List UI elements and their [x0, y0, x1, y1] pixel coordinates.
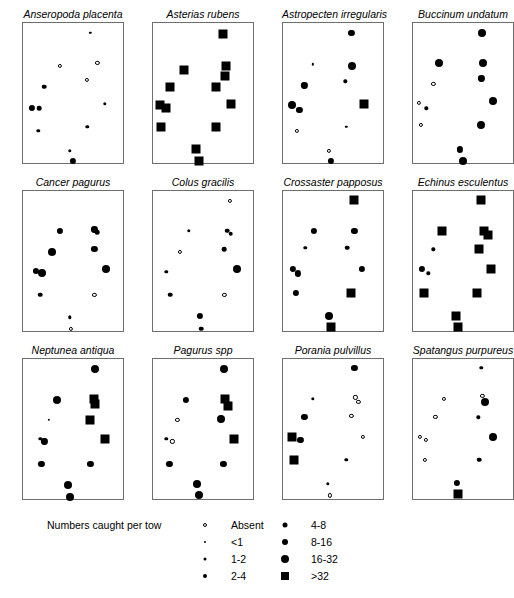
abundance-marker: [91, 400, 100, 409]
abundance-marker: [359, 99, 368, 108]
panel-title: Neptunea antiqua: [22, 344, 124, 356]
abundance-marker: [451, 311, 460, 320]
panel-title: Pagurus spp: [152, 344, 254, 356]
island-outline: [153, 359, 253, 499]
abundance-marker: [224, 401, 233, 410]
abundance-marker: [179, 65, 188, 74]
legend-label: 2-4: [231, 568, 246, 584]
panel-title: Astropecten irregularis: [282, 8, 384, 20]
island-outline: [283, 23, 383, 163]
abundance-marker: [484, 231, 493, 240]
panel-map-area: [152, 190, 254, 332]
abundance-marker: [199, 326, 204, 331]
abundance-marker: [221, 71, 230, 80]
species-panel: Buccinum undatum: [412, 8, 514, 164]
abundance-marker: [435, 59, 443, 67]
legend-square-icon: [281, 572, 289, 580]
island-outline: [283, 359, 383, 499]
island-outline: [153, 23, 253, 163]
abundance-marker: [233, 265, 241, 273]
abundance-marker: [191, 145, 200, 154]
panel-map-area: [22, 358, 124, 500]
abundance-marker: [157, 122, 166, 131]
abundance-marker: [477, 121, 485, 129]
panel-map-area: [152, 358, 254, 500]
island-outline: [413, 359, 513, 499]
legend-label: 16-32: [311, 551, 338, 567]
legend-label: <1: [231, 534, 243, 550]
abundance-marker: [95, 230, 100, 235]
abundance-marker: [477, 195, 486, 204]
abundance-marker: [194, 156, 203, 165]
legend-label: 1-2: [231, 551, 246, 567]
abundance-marker: [162, 104, 171, 113]
species-panel: Spatangus purpureus: [412, 344, 514, 500]
abundance-marker: [226, 99, 235, 108]
abundance-marker: [486, 265, 495, 274]
panel-title: Porania pulvillus: [282, 344, 384, 356]
panel-title: Buccinum undatum: [412, 8, 514, 20]
abundance-marker: [102, 265, 110, 273]
abundance-marker: [489, 97, 497, 105]
abundance-marker: [437, 226, 446, 235]
abundance-marker: [86, 416, 95, 425]
panel-title: Colus gracilis: [152, 176, 254, 188]
abundance-marker: [193, 480, 201, 488]
island-outline: [283, 191, 383, 331]
abundance-marker: [228, 231, 233, 236]
abundance-marker: [38, 269, 46, 277]
species-panel: Neptunea antiqua: [22, 344, 124, 500]
species-panel: Cancer pagurus: [22, 176, 124, 332]
abundance-marker: [66, 493, 74, 501]
abundance-marker: [347, 289, 356, 298]
abundance-marker: [48, 248, 56, 256]
abundance-marker: [195, 491, 203, 499]
legend-label: >32: [311, 568, 329, 584]
abundance-marker: [477, 458, 482, 463]
legend-open-circle-icon: [203, 523, 207, 527]
abundance-marker: [420, 289, 429, 298]
abundance-marker: [217, 415, 225, 423]
abundance-marker: [325, 312, 333, 320]
legend-circle-icon: [204, 541, 206, 543]
species-panel: Pagurus spp: [152, 344, 254, 500]
species-panel: Crossaster papposus: [282, 176, 384, 332]
abundance-marker: [350, 195, 359, 204]
abundance-marker: [53, 396, 61, 404]
abundance-marker: [220, 365, 228, 373]
panel-map-area: [282, 358, 384, 500]
abundance-marker: [348, 62, 356, 70]
abundance-marker: [453, 489, 462, 498]
panel-map-area: [22, 190, 124, 332]
species-panel: Porania pulvillus: [282, 344, 384, 500]
abundance-marker: [222, 61, 231, 70]
legend-title: Numbers caught per tow: [47, 519, 161, 531]
legend-label: 8-16: [311, 534, 332, 550]
island-outline: [153, 191, 253, 331]
species-panel: Colus gracilis: [152, 176, 254, 332]
abundance-marker: [345, 246, 350, 251]
abundance-marker: [288, 433, 297, 442]
panel-title: Anseropoda placenta: [22, 8, 124, 20]
panel-map-area: [152, 22, 254, 164]
abundance-marker: [473, 289, 482, 298]
legend-circle-icon: [281, 555, 289, 563]
abundance-marker: [326, 323, 335, 332]
abundance-marker: [479, 59, 487, 67]
legend-circle-icon: [282, 539, 288, 545]
abundance-marker: [38, 292, 43, 297]
species-panel: Echinus esculentus: [412, 176, 514, 332]
island-outline: [413, 191, 513, 331]
abundance-marker: [212, 82, 221, 91]
island-outline: [23, 23, 123, 163]
abundance-marker: [229, 434, 238, 443]
abundance-marker: [42, 85, 47, 90]
panel-title: Spatangus purpureus: [412, 344, 514, 356]
legend-circle-icon: [204, 558, 207, 561]
figure-legend: Numbers caught per tow Absent<11-22-4 4-…: [0, 505, 513, 598]
abundance-marker: [166, 82, 175, 91]
abundance-marker: [288, 101, 296, 109]
panel-map-area: [412, 358, 514, 500]
species-panel: Astropecten irregularis: [282, 8, 384, 164]
